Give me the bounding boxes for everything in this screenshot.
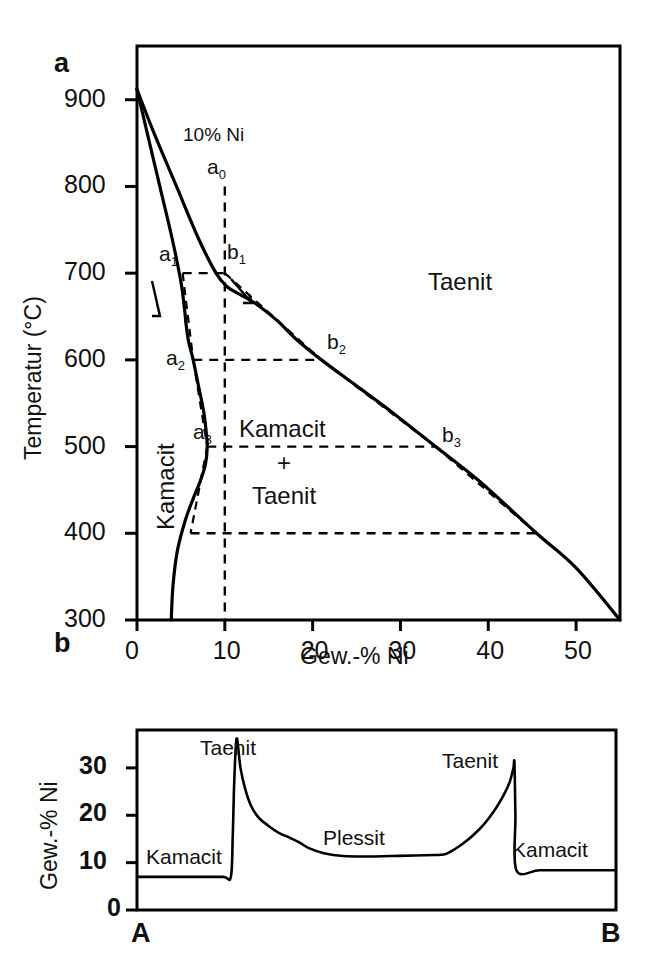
- panel-a-x-tick-label: 20: [301, 636, 329, 665]
- panel-a-letter: a: [54, 48, 69, 79]
- panel-a-x-tick-label: 10: [213, 636, 241, 665]
- point-a2-base: a: [166, 346, 178, 369]
- point-a2-sub: 2: [178, 358, 185, 373]
- panel-a-x-tick-label: 30: [388, 636, 416, 665]
- profile-kamacite-left-label: Kamacit: [146, 845, 222, 869]
- profile-taenite-left-label: Taenit: [200, 736, 256, 760]
- point-a0-base: a: [207, 155, 219, 178]
- panel-a-y-tick-label: 800: [64, 170, 106, 199]
- point-label-b3: b3: [442, 423, 461, 450]
- point-b1-sub: 1: [239, 252, 246, 267]
- panel-a-y-tick-label: 600: [64, 344, 106, 373]
- panel-a-x-tick-label: 0: [125, 636, 139, 665]
- two-phase-field-plus: +: [277, 449, 291, 477]
- point-label-a0: a0: [207, 155, 226, 182]
- panel-a-y-tick-label: 400: [64, 517, 106, 546]
- kamacite-field-label: Kamacit: [152, 443, 180, 530]
- composition-note-10-percent-ni: 10% Ni: [183, 124, 244, 146]
- traverse-start-label-a: A: [131, 918, 151, 949]
- point-label-a3: a3: [193, 420, 212, 447]
- point-label-a2: a2: [166, 346, 185, 373]
- point-label-b2: b2: [327, 330, 346, 357]
- point-b1-base: b: [227, 240, 239, 263]
- taenite-field-label: Taenit: [428, 268, 492, 296]
- panel-a-y-tick-label: 500: [64, 431, 106, 460]
- point-a3-sub: 3: [205, 432, 212, 447]
- point-b2-base: b: [327, 330, 339, 353]
- panel-b-y-tick-label: 0: [107, 893, 121, 922]
- point-label-a1: a1: [159, 242, 178, 269]
- panel-a-x-tick-label: 50: [564, 636, 592, 665]
- point-a1-sub: 1: [171, 254, 178, 269]
- panel-b-letter: b: [54, 628, 71, 659]
- point-b3-sub: 3: [454, 435, 461, 450]
- profile-taenite-right-label: Taenit: [442, 749, 498, 773]
- point-a3-base: a: [193, 420, 205, 443]
- point-a0-sub: 0: [219, 167, 226, 182]
- point-b3-base: b: [442, 423, 454, 446]
- two-phase-field-kamacit: Kamacit: [239, 415, 326, 443]
- point-label-b1: b1: [227, 240, 246, 267]
- profile-plessite-label: Plessit: [323, 826, 385, 850]
- panel-b-y-tick-label: 20: [79, 798, 107, 827]
- panel-b-y-tick-label: 10: [79, 846, 107, 875]
- profile-kamacite-right-label: Kamacit: [512, 838, 588, 862]
- panel-b-y-axis-title: Gew.-% Ni: [36, 781, 63, 890]
- figure-root: a Temperatur (°C) Gew.-% Ni 10% Ni Taeni…: [0, 0, 656, 967]
- two-phase-field-taenit: Taenit: [252, 482, 316, 510]
- panel-b-y-tick-label: 30: [79, 751, 107, 780]
- panel-a-y-tick-label: 900: [64, 84, 106, 113]
- point-b2-sub: 2: [339, 342, 346, 357]
- panel-a-x-tick-label: 40: [476, 636, 504, 665]
- traverse-end-label-b: B: [601, 918, 621, 949]
- panel-a-y-axis-title: Temperatur (°C): [20, 296, 47, 460]
- panel-a-y-tick-label: 700: [64, 257, 106, 286]
- point-a1-base: a: [159, 242, 171, 265]
